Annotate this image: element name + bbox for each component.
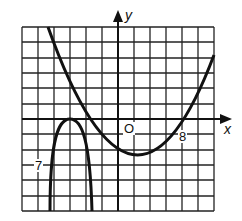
y-axis-arrow-icon [113,10,123,22]
origin-label: O [123,122,135,135]
y-axis-label: y [125,8,132,22]
coordinate-graph [0,0,242,221]
x-tick-label-8: 8 [178,130,187,143]
axes [22,20,224,211]
x-axis-label: x [224,122,231,136]
y-tick-label-7: 7 [34,159,43,172]
